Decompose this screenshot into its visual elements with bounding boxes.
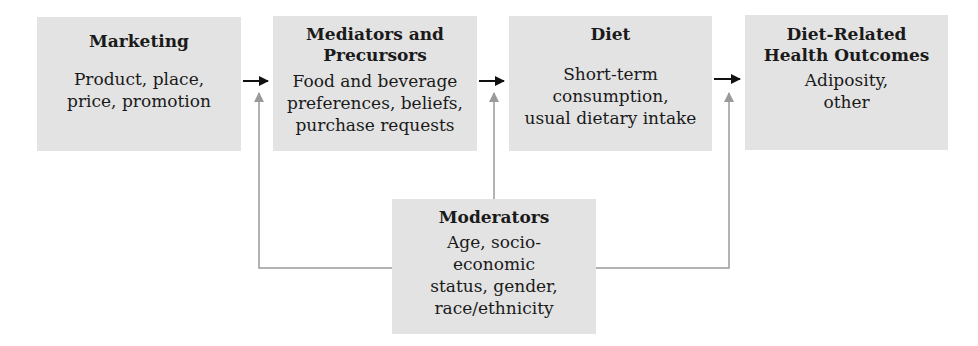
diet-line-3: usual dietary intake: [509, 107, 712, 129]
diet-line-1: Short-term: [509, 63, 712, 85]
outcomes-box: Diet-Related Health Outcomes Adiposity, …: [745, 15, 948, 150]
moderators-line-2: economic: [392, 253, 596, 275]
mediators-title-1: Mediators and: [273, 24, 477, 45]
diet-box: Diet Short-term consumption, usual dieta…: [509, 16, 712, 151]
moderators-line-1: Age, socio-: [392, 231, 596, 253]
outcomes-line-1: Adiposity,: [745, 69, 948, 91]
mediators-line-1: Food and beverage: [273, 70, 477, 92]
moderators-box: Moderators Age, socio- economic status, …: [392, 199, 596, 334]
mediators-box: Mediators and Precursors Food and bevera…: [273, 16, 477, 151]
marketing-line-2: price, promotion: [37, 90, 241, 112]
diet-title: Diet: [509, 24, 712, 45]
outcomes-line-2: other: [745, 91, 948, 113]
moderators-title: Moderators: [392, 207, 596, 228]
moderators-line-3: status, gender,: [392, 275, 596, 297]
marketing-title: Marketing: [37, 31, 241, 52]
mediators-title-2: Precursors: [273, 45, 477, 66]
marketing-line-1: Product, place,: [37, 68, 241, 90]
marketing-box: Marketing Product, place, price, promoti…: [37, 17, 241, 151]
outcomes-title-1: Diet-Related: [745, 24, 948, 45]
moderators-line-4: race/ethnicity: [392, 297, 596, 319]
mediators-line-2: preferences, beliefs,: [273, 92, 477, 114]
mediators-line-3: purchase requests: [273, 114, 477, 136]
diet-line-2: consumption,: [509, 85, 712, 107]
outcomes-title-2: Health Outcomes: [745, 45, 948, 66]
